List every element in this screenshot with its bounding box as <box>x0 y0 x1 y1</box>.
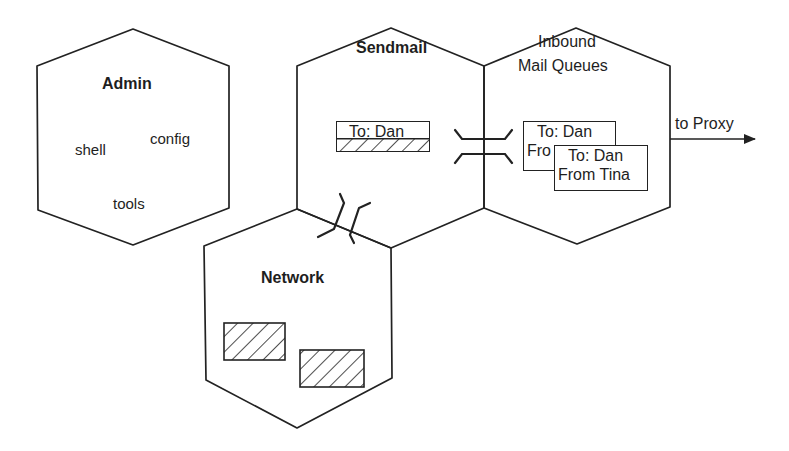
inbound-message-2-to: To: Dan <box>558 146 644 165</box>
admin-hexagon <box>37 29 229 245</box>
sendmail-message: To: Dan From Tina <box>336 121 430 152</box>
to-proxy-label: to Proxy <box>675 115 734 133</box>
network-title: Network <box>261 269 324 287</box>
inbound-message-2-from: From Tina <box>558 165 644 184</box>
sendmail-message-progress-hatch <box>337 138 430 152</box>
network-hexagon <box>204 209 392 428</box>
inbound-message-2: To: Dan From Tina <box>554 145 648 191</box>
inbound-message-1-to: To: Dan <box>527 122 612 141</box>
admin-item-tools: tools <box>113 195 145 212</box>
admin-title: Admin <box>102 75 152 93</box>
inbound-title-line2: Mail Queues <box>518 57 608 75</box>
network-packet-2 <box>300 350 364 387</box>
diagram-canvas <box>0 0 789 451</box>
sendmail-title: Sendmail <box>356 39 427 57</box>
inbound-title-line1: Inbound <box>538 33 596 51</box>
network-packet-1 <box>224 323 285 360</box>
admin-item-config: config <box>150 130 190 147</box>
admin-item-shell: shell <box>75 141 106 158</box>
